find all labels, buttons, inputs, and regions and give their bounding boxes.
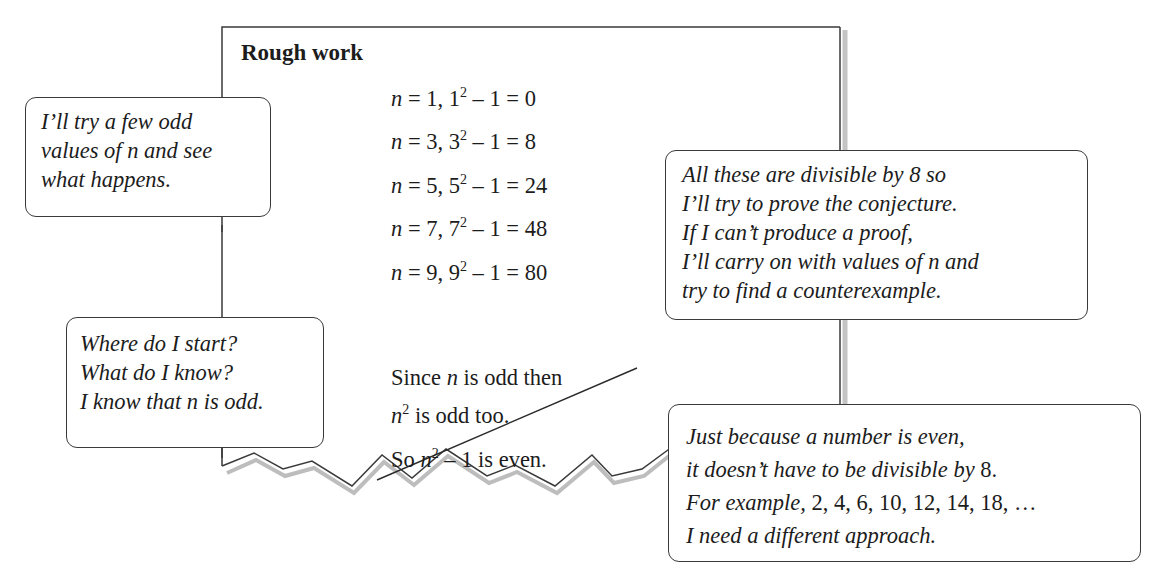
- callout-try-values: I’ll try a few odd values of n and see w…: [25, 97, 271, 217]
- crossed-out-line: Since n is odd then: [391, 365, 562, 391]
- rough-work-title: Rough work: [241, 40, 363, 66]
- callout-divisible: All these are divisible by 8 so I’ll try…: [665, 150, 1088, 320]
- callout-where-start: Where do I start? What do I know? I know…: [66, 317, 324, 448]
- callout-just-because: Just because a number is even, it doesn’…: [668, 404, 1141, 562]
- crossed-out-line: So n2 – 1 is even.: [391, 447, 547, 473]
- crossed-out-line: n2 is odd too.: [391, 403, 509, 429]
- equation-row: n = 5, 52 – 1 = 24: [391, 173, 547, 199]
- equation-row: n = 7, 72 – 1 = 48: [391, 216, 547, 242]
- equation-row: n = 9, 92 – 1 = 80: [391, 260, 547, 286]
- equation-row: n = 3, 32 – 1 = 8: [391, 129, 536, 155]
- equation-row: n = 1, 12 – 1 = 0: [391, 86, 536, 112]
